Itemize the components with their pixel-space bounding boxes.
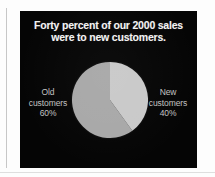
slide-title-line-2: were to new customers. [26, 32, 191, 44]
page-edge-rule [6, 8, 7, 168]
pie-chart [72, 62, 148, 138]
pie-label-new-qualifier: customers [142, 98, 194, 109]
pie-label-new-customers: New customers 40% [142, 87, 194, 119]
pie-label-old-customers: Old customers 60% [22, 87, 74, 119]
pie-label-new-name: New [142, 87, 194, 98]
pie-label-old-qualifier: customers [22, 98, 74, 109]
slide-title: Forty percent of our 2000 sales were to … [26, 20, 191, 43]
slide-title-line-1: Forty percent of our 2000 sales [26, 20, 191, 32]
scanned-page: Forty percent of our 2000 sales were to … [0, 0, 215, 177]
pie-label-new-percent: 40% [142, 108, 194, 119]
pie-label-old-name: Old [22, 87, 74, 98]
pie-label-old-percent: 60% [22, 108, 74, 119]
page-bottom-rule [0, 172, 215, 173]
pie-chart-svg [72, 62, 148, 138]
presentation-slide: Forty percent of our 2000 sales were to … [20, 11, 197, 168]
